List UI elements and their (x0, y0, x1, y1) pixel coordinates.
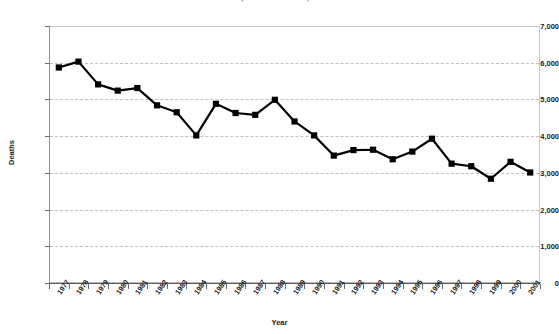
y-tick-label: 3,000 (515, 168, 559, 177)
x-tick-mark (344, 284, 345, 289)
x-tick-mark (206, 284, 207, 289)
x-tick-mark (324, 284, 325, 289)
x-tick-mark (383, 284, 384, 289)
x-axis-title: Year (0, 318, 559, 327)
gridline (50, 63, 539, 64)
x-tick-mark (167, 284, 168, 289)
gridline (50, 246, 539, 247)
x-tick-mark (265, 284, 266, 289)
y-tick-label: 5,000 (515, 95, 559, 104)
gridline (50, 26, 539, 27)
y-tick-mark (45, 173, 50, 174)
gridline (50, 210, 539, 211)
x-tick-mark (520, 284, 521, 289)
chart-page: DEATHS, UNITED STATES, 1977-2001 01,0002… (0, 0, 559, 334)
x-tick-mark (88, 284, 89, 289)
chart-title: DEATHS, UNITED STATES, 1977-2001 (0, 0, 559, 2)
gridline (50, 99, 539, 100)
x-tick-mark (186, 284, 187, 289)
y-tick-label: 2,000 (515, 205, 559, 214)
x-tick-mark (285, 284, 286, 289)
x-tick-mark (363, 284, 364, 289)
y-tick-label: 6,000 (515, 58, 559, 67)
x-tick-mark (69, 284, 70, 289)
y-axis-title: Deaths (7, 123, 16, 183)
y-tick-mark (45, 246, 50, 247)
x-tick-mark (481, 284, 482, 289)
x-tick-mark (304, 284, 305, 289)
x-tick-mark (147, 284, 148, 289)
x-tick-mark (461, 284, 462, 289)
y-tick-mark (45, 63, 50, 64)
y-tick-label: 4,000 (515, 132, 559, 141)
x-tick-mark (128, 284, 129, 289)
y-tick-mark (45, 99, 50, 100)
y-tick-label: 1,000 (515, 242, 559, 251)
gridline (50, 136, 539, 137)
x-tick-mark (245, 284, 246, 289)
x-tick-mark (403, 284, 404, 289)
x-tick-mark (422, 284, 423, 289)
x-tick-mark (49, 284, 50, 289)
x-tick-mark (501, 284, 502, 289)
x-tick-mark (108, 284, 109, 289)
x-tick-mark (226, 284, 227, 289)
plot-area (49, 26, 540, 283)
y-tick-mark (45, 136, 50, 137)
y-tick-mark (45, 26, 50, 27)
gridline (50, 173, 539, 174)
y-tick-mark (45, 210, 50, 211)
y-tick-label: 7,000 (515, 22, 559, 31)
x-tick-mark (540, 284, 541, 289)
x-tick-mark (442, 284, 443, 289)
